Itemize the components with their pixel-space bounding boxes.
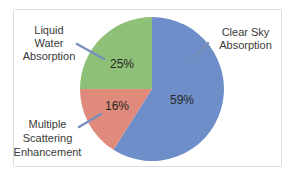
pie-slices-group — [80, 17, 224, 161]
label-line: Enhancement — [5, 145, 90, 159]
label-clear-sky-absorption: Clear Sky Absorption — [208, 26, 283, 52]
label-line: Clear Sky — [208, 26, 283, 39]
label-line: Multiple — [5, 117, 90, 131]
label-line: Absorption — [208, 39, 283, 52]
pie-chart-figure: Liquid Water Absorption Clear Sky Absorp… — [0, 0, 291, 176]
label-line: Absorption — [14, 50, 84, 63]
percent-label-liquid-water: 25% — [102, 57, 142, 71]
label-line: Scattering — [5, 131, 90, 145]
label-line: Liquid — [14, 24, 84, 37]
percent-label-clear-sky: 59% — [162, 93, 202, 107]
label-multiple-scattering-enhancement: Multiple Scattering Enhancement — [5, 117, 90, 159]
label-line: Water — [14, 37, 84, 50]
label-liquid-water-absorption: Liquid Water Absorption — [14, 24, 84, 63]
percent-label-multiple-scattering: 16% — [97, 99, 137, 113]
